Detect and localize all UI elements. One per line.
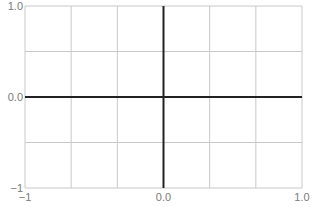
zero-axes <box>25 6 302 188</box>
y-tick-label: 0.0 <box>8 91 23 103</box>
y-tick-label: 1.0 <box>8 0 23 12</box>
tick-labels: 1.00.0−1−10.01.0 <box>8 0 310 203</box>
x-tick-label: 1.0 <box>294 191 309 203</box>
x-tick-label: 0.0 <box>156 191 171 203</box>
x-tick-label: −1 <box>19 191 32 203</box>
chart: 1.00.0−1−10.01.0 <box>0 0 315 207</box>
